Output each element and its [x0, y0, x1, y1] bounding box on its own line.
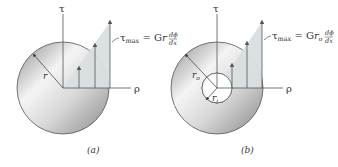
svg-text:τmax = Gr: τmax = Gr	[120, 32, 168, 45]
formula-leader	[112, 38, 119, 42]
tau-axis-label: τ	[213, 3, 219, 14]
svg-text:dϕ: dϕ	[325, 29, 334, 37]
rho-axis-label: ρ	[134, 83, 140, 94]
tau-max-formula-a: τmax = Gr dϕ dx	[120, 31, 178, 47]
radius-label: r	[43, 71, 48, 81]
svg-text:dϕ: dϕ	[169, 31, 178, 39]
figure-a: τ ρ r τmax = Gr dϕ dx (a)	[17, 3, 178, 155]
tau-axis-label: τ	[59, 3, 65, 14]
torsion-shear-stress-diagram: τ ρ r τmax = Gr dϕ dx (a) τ ρ ro ri τmax…	[0, 0, 338, 167]
figure-b: τ ρ ro ri τmax = Gro dϕ dx (b)	[171, 3, 334, 155]
caption-a: (a)	[87, 145, 100, 155]
svg-text:τmax = Gro: τmax = Gro	[272, 30, 323, 43]
svg-text:dx: dx	[169, 39, 177, 47]
formula-leader	[264, 36, 271, 40]
tau-max-formula-b: τmax = Gro dϕ dx	[272, 29, 334, 45]
caption-b: (b)	[241, 145, 254, 155]
rho-axis-label: ρ	[286, 83, 292, 94]
svg-text:dx: dx	[325, 37, 333, 45]
